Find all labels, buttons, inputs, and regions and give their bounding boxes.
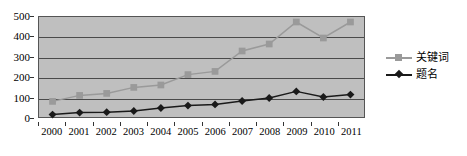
data-point-square [293, 19, 300, 26]
x-axis-tick-label: 2003 [123, 127, 144, 138]
legend-item-2[interactable]: 题名 [386, 67, 464, 82]
chart-legend: 关键词题名 [386, 50, 464, 84]
legend-marker-diamond-icon [394, 70, 402, 78]
data-point-square [347, 19, 354, 26]
data-point-diamond [346, 91, 354, 99]
y-axis-tick-mark [30, 57, 34, 58]
data-point-diamond [211, 100, 219, 108]
data-point-diamond [265, 94, 273, 102]
y-axis-tick-label: 500 [14, 11, 31, 22]
y-axis-tick-mark [30, 36, 34, 37]
x-axis-tick-mark [93, 122, 94, 126]
x-axis-tick-mark [65, 122, 66, 126]
data-point-square [212, 68, 219, 75]
data-point-diamond [238, 97, 246, 105]
legend-marker-square-icon [395, 54, 402, 61]
x-axis-tick-label: 2001 [68, 127, 89, 138]
x-axis-tick-label: 2007 [232, 127, 253, 138]
data-point-square [266, 41, 273, 48]
y-axis-tick-label: 200 [14, 72, 31, 83]
data-point-diamond [49, 111, 57, 119]
data-point-square [76, 92, 83, 99]
x-axis-tick-mark [256, 122, 257, 126]
y-axis-tick-label: 100 [14, 92, 31, 103]
data-point-square [130, 84, 137, 91]
y-axis-tick-label: 400 [14, 31, 31, 42]
y-axis-tick-mark [30, 77, 34, 78]
y-axis-tick-mark [30, 98, 34, 99]
series-2 [49, 87, 355, 118]
data-point-square [239, 48, 246, 55]
data-point-diamond [103, 108, 111, 116]
x-axis-tick-mark [229, 122, 230, 126]
series-line [53, 22, 351, 101]
data-point-diamond [157, 104, 165, 112]
x-axis-tick-label: 2006 [205, 127, 226, 138]
x-axis-tick-mark [174, 122, 175, 126]
legend-swatch-icon [386, 52, 412, 64]
x-axis-tick-label: 2000 [41, 127, 62, 138]
legend-label: 关键词 [412, 52, 449, 63]
y-axis-tick-mark [30, 16, 34, 17]
series-layer [39, 17, 364, 117]
y-axis-tick-mark [30, 118, 34, 119]
x-axis-tick-mark [120, 122, 121, 126]
x-axis-tick-label: 2004 [150, 127, 171, 138]
data-point-square [320, 35, 327, 42]
x-axis: 2000200120022003200420052006200720082009… [38, 122, 365, 142]
legend-label: 题名 [412, 69, 438, 80]
x-axis-tick-mark [202, 122, 203, 126]
y-axis: 0100200300400500 [0, 16, 34, 118]
x-axis-tick-label: 2009 [286, 127, 307, 138]
legend-swatch-icon [386, 69, 412, 81]
x-axis-tick-mark [147, 122, 148, 126]
plot-area [38, 16, 365, 118]
x-axis-tick-label: 2010 [314, 127, 335, 138]
data-point-square [157, 82, 164, 89]
x-axis-tick-mark [38, 122, 39, 126]
data-point-diamond [292, 87, 300, 95]
x-axis-tick-label: 2011 [341, 127, 362, 138]
data-point-square [185, 71, 192, 78]
x-axis-tick-mark [283, 122, 284, 126]
y-axis-tick-label: 300 [14, 51, 31, 62]
data-point-diamond [184, 102, 192, 110]
x-axis-tick-label: 2005 [177, 127, 198, 138]
series-line [53, 91, 351, 114]
data-point-square [103, 90, 110, 97]
data-point-diamond [319, 93, 327, 101]
data-point-square [49, 98, 56, 105]
chart-container: 0100200300400500 20002001200220032004200… [0, 0, 467, 156]
legend-item-1[interactable]: 关键词 [386, 50, 464, 65]
x-axis-tick-mark [338, 122, 339, 126]
data-point-diamond [130, 107, 138, 115]
x-axis-tick-label: 2008 [259, 127, 280, 138]
x-axis-tick-mark [311, 122, 312, 126]
data-point-diamond [76, 109, 84, 117]
x-axis-tick-label: 2002 [96, 127, 117, 138]
series-1 [49, 19, 354, 105]
